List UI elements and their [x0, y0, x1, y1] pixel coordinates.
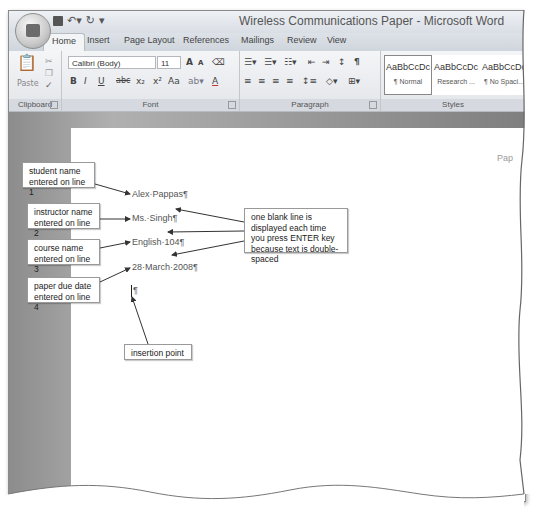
font-color-button[interactable]: A [212, 75, 218, 87]
clipboard-launcher-icon[interactable] [50, 101, 58, 109]
doc-line-instructor[interactable]: Ms.·Singh¶ [132, 213, 177, 223]
style-name: Research ... [433, 78, 479, 85]
ribbon: 📋 Paste ✂ ❐ ✓ Clipboard Calibri (Body) 1… [9, 51, 525, 112]
bullets-icon[interactable]: ☰▾ [244, 56, 257, 68]
change-case-button[interactable]: Aa [168, 75, 180, 87]
style-preview: AaBbCcDc [433, 62, 479, 72]
tab-view[interactable]: View [327, 35, 346, 45]
callout-instructor-name: instructor name entered on line 2 [27, 203, 100, 229]
style-name: ¶ Normal [385, 78, 431, 85]
insertion-point [131, 285, 132, 297]
tab-review[interactable]: Review [287, 35, 317, 45]
paste-label[interactable]: Paste [17, 78, 39, 90]
ribbon-tabs: Home Insert Page Layout References Maili… [9, 33, 525, 51]
paste-icon[interactable]: 📋 [17, 57, 37, 69]
tab-references[interactable]: References [183, 35, 229, 45]
doc-line-student[interactable]: Alex·Pappas¶ [132, 189, 188, 199]
undo-icon[interactable]: ↶▾ [67, 14, 82, 27]
bold-button[interactable]: B [70, 75, 77, 87]
header-text-fragment: Pap [497, 153, 513, 163]
styles-group-label: Styles [381, 99, 525, 111]
shrink-font-button[interactable]: A [198, 57, 203, 69]
copy-icon[interactable]: ❐ [45, 67, 53, 79]
sort-icon[interactable]: ↕ [338, 56, 346, 68]
font-name-input[interactable]: Calibri (Body) [68, 56, 156, 69]
align-center-icon[interactable]: ≡ [258, 75, 266, 87]
callout-course-name: course name entered on line 3 [27, 239, 100, 265]
paragraph-launcher-icon[interactable] [369, 101, 377, 109]
style-preview: AaBbCcDc [481, 62, 526, 72]
window-title: Wireless Communications Paper - Microsof… [239, 14, 504, 28]
font-group-label: Font [62, 99, 239, 111]
highlight-icon[interactable]: ab▾ [188, 75, 204, 87]
line-spacing-icon[interactable]: ↕≡ [302, 75, 317, 87]
style-normal[interactable]: AaBbCcDc ¶ Normal [384, 55, 432, 95]
office-logo-icon [26, 24, 40, 37]
save-icon[interactable] [53, 16, 63, 26]
style-no-spacing[interactable]: AaBbCcDc ¶ No Spaci... [480, 55, 526, 95]
callout-blank-line: one blank line is displayed each time yo… [244, 208, 348, 253]
tab-page-layout[interactable]: Page Layout [124, 35, 175, 45]
superscript-button[interactable]: x² [153, 75, 162, 87]
style-name: ¶ No Spaci... [481, 78, 526, 85]
borders-icon[interactable]: ⊞▾ [348, 75, 360, 87]
quick-access-toolbar: ↶▾ ↻ ▾ [53, 14, 105, 27]
style-preview: AaBbCcDc [385, 62, 431, 72]
grow-font-button[interactable]: A [186, 56, 193, 68]
shading-icon[interactable]: ◇▾ [326, 75, 337, 87]
tab-insert[interactable]: Insert [87, 35, 110, 45]
styles-group: AaBbCcDc ¶ Normal AaBbCcDc Research ... … [381, 51, 525, 111]
font-size-input[interactable]: 11 [157, 56, 181, 69]
decrease-indent-icon[interactable]: ⇤ [308, 56, 316, 68]
paragraph-group-label: Paragraph [240, 99, 380, 111]
increase-indent-icon[interactable]: ⇥ [322, 56, 330, 68]
style-research[interactable]: AaBbCcDc Research ... [432, 55, 480, 95]
customize-qat-icon[interactable]: ▾ [99, 14, 105, 27]
format-painter-icon[interactable]: ✓ [45, 79, 53, 91]
align-left-icon[interactable]: ≡ [244, 75, 252, 87]
font-launcher-icon[interactable] [228, 101, 236, 109]
doc-line-date[interactable]: 28·March·2008¶ [132, 262, 198, 272]
underline-button[interactable]: U [98, 75, 105, 87]
align-right-icon[interactable]: ≡ [272, 75, 280, 87]
numbering-icon[interactable]: ☰▾ [264, 56, 277, 68]
empty-paragraph-mark: ¶ [133, 285, 138, 295]
strikethrough-button[interactable]: abc [116, 75, 130, 87]
justify-icon[interactable]: ≡ [286, 75, 294, 87]
callout-due-date: paper due date entered on line 4 [27, 277, 100, 303]
callout-student-name: student name entered on line 1 [22, 162, 95, 188]
clear-formatting-icon[interactable]: ⌫ [212, 56, 225, 68]
multilevel-list-icon[interactable]: ☷▾ [284, 56, 297, 68]
italic-button[interactable]: I [84, 75, 87, 87]
callout-insertion-point: insertion point [124, 344, 192, 360]
subscript-button[interactable]: x₂ [136, 75, 145, 87]
document-page[interactable] [71, 128, 526, 502]
doc-line-course[interactable]: English·104¶ [132, 237, 184, 247]
office-button[interactable] [15, 13, 51, 49]
cut-icon[interactable]: ✂ [45, 55, 53, 67]
font-group: Calibri (Body) 11 A A ⌫ B I U abc x₂ x² … [62, 51, 240, 111]
title-bar: ↶▾ ↻ ▾ Wireless Communications Paper - M… [9, 11, 525, 33]
tab-mailings[interactable]: Mailings [241, 35, 274, 45]
paragraph-group: ☰▾ ☰▾ ☷▾ ⇤ ⇥ ↕ ¶ ≡ ≡ ≡ ≡ ↕≡ ◇▾ ⊞▾ Paragr… [240, 51, 381, 111]
show-hide-button[interactable]: ¶ [354, 56, 360, 68]
clipboard-group: 📋 Paste ✂ ❐ ✓ Clipboard [9, 51, 62, 111]
redo-icon[interactable]: ↻ [86, 14, 95, 27]
